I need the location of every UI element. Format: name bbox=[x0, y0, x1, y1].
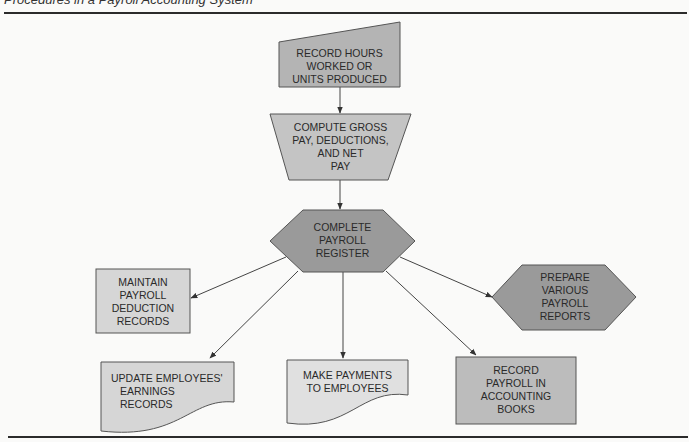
label-line: COMPUTE GROSS bbox=[278, 121, 403, 134]
label-line: WORKED OR bbox=[279, 60, 400, 73]
maintain-deduction-label: MAINTAIN PAYROLL DEDUCTION RECORDS bbox=[96, 276, 190, 328]
label-line: MAINTAIN bbox=[96, 276, 190, 289]
label-line: PAY, DEDUCTIONS, bbox=[278, 134, 403, 147]
label-line: UNITS PRODUCED bbox=[279, 73, 400, 86]
complete-register-label: COMPLETE PAYROLL REGISTER bbox=[290, 221, 395, 260]
label-line: RECORD HOURS bbox=[279, 47, 400, 60]
edge-register-to-books bbox=[386, 271, 476, 355]
label-line: UPDATE EMPLOYEES' bbox=[111, 372, 236, 385]
edge-register-to-maintain bbox=[191, 257, 286, 298]
label-line: EARNINGS bbox=[111, 385, 236, 398]
label-line: REPORTS bbox=[520, 310, 610, 323]
record-hours-label: RECORD HOURS WORKED OR UNITS PRODUCED bbox=[279, 47, 400, 86]
label-line: RECORD bbox=[456, 364, 576, 377]
label-line: PAY bbox=[278, 160, 403, 173]
label-line: REGISTER bbox=[290, 247, 395, 260]
make-payments-label: MAKE PAYMENTS TO EMPLOYEES bbox=[287, 369, 408, 395]
payroll-flowchart: Procedures in a Payroll Accounting Syste… bbox=[0, 0, 689, 442]
label-line: PAYROLL IN bbox=[456, 377, 576, 390]
update-earnings-label: UPDATE EMPLOYEES' EARNINGS RECORDS bbox=[111, 372, 236, 411]
edge-register-to-reports bbox=[400, 257, 492, 297]
label-line: RECORDS bbox=[111, 398, 236, 411]
bottom-rule bbox=[8, 436, 688, 438]
prepare-reports-label: PREPARE VARIOUS PAYROLL REPORTS bbox=[520, 271, 610, 323]
label-line: PREPARE bbox=[520, 271, 610, 284]
label-line: MAKE PAYMENTS bbox=[287, 369, 408, 382]
label-line: PAYROLL bbox=[520, 297, 610, 310]
label-line: PAYROLL bbox=[290, 234, 395, 247]
record-books-label: RECORD PAYROLL IN ACCOUNTING BOOKS bbox=[456, 364, 576, 416]
label-line: ACCOUNTING bbox=[456, 390, 576, 403]
compute-pay-label: COMPUTE GROSS PAY, DEDUCTIONS, AND NET P… bbox=[278, 121, 403, 173]
label-line: AND NET bbox=[278, 147, 403, 160]
label-line: VARIOUS bbox=[520, 284, 610, 297]
label-line: COMPLETE bbox=[290, 221, 395, 234]
label-line: DEDUCTION bbox=[96, 302, 190, 315]
label-line: TO EMPLOYEES bbox=[287, 382, 408, 395]
label-line: RECORDS bbox=[96, 315, 190, 328]
label-line: BOOKS bbox=[456, 403, 576, 416]
label-line: PAYROLL bbox=[96, 289, 190, 302]
